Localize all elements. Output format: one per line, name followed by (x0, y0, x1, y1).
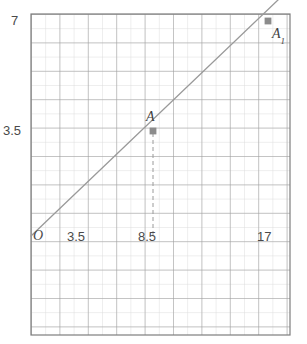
point-label-a1-subscript: 1 (281, 36, 286, 46)
grid-major-lines (31, 14, 290, 335)
point-marker-a (150, 128, 157, 135)
point-label-a: A (146, 110, 155, 124)
point-label-a1-text: A (272, 26, 281, 41)
x-axis-tick-label-17: 17 (257, 230, 271, 243)
x-axis-tick-label-8point5: 8.5 (138, 230, 156, 243)
y-axis-tick-label-7: 7 (11, 14, 18, 27)
plot-canvas (0, 0, 307, 344)
grid-area (31, 14, 290, 335)
point-label-a1: A1 (272, 27, 285, 46)
point-label-a-text: A (146, 109, 155, 124)
y-axis-tick-label-3point5: 3.5 (3, 124, 21, 137)
x-axis-tick-label-3point5: 3.5 (67, 230, 85, 243)
point-marker-a1 (265, 18, 272, 25)
coordinate-plot-figure: 7 3.5 O 3.5 8.5 17 A A1 (0, 0, 307, 344)
origin-label: O (33, 229, 43, 243)
